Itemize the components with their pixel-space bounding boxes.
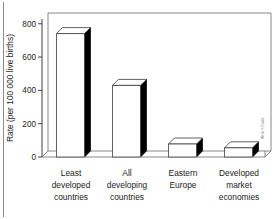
bar-group-2	[169, 138, 203, 157]
category-label-line: market	[226, 180, 252, 190]
source-credit: WHO 97/1441	[261, 117, 265, 139]
category-label-line: Developed	[219, 168, 259, 178]
bar-group-3	[225, 142, 259, 157]
y-tick-label: 800	[22, 20, 36, 29]
y-tick-label: 400	[22, 86, 36, 95]
category-label-line: Europe	[169, 180, 196, 190]
category-label-line: Least	[61, 168, 82, 178]
y-tick-label: 0	[31, 153, 36, 162]
y-tick-label: 600	[22, 53, 36, 62]
category-label-line: Eastern	[169, 168, 198, 178]
category-label-line: developing	[107, 180, 148, 190]
category-label-line: economies	[219, 192, 260, 202]
chart-figure: 800 600 400 200 0 Rate (per 100 000 live…	[0, 0, 277, 219]
category-label-line: developed	[52, 180, 91, 190]
y-axis-label: Rate (per 100 000 live births)	[5, 34, 15, 142]
category-label-line: All	[122, 168, 131, 178]
category-label-line: countries	[54, 192, 88, 202]
bar-group-1	[113, 79, 147, 157]
bar-group-0	[57, 28, 91, 157]
y-tick-label: 200	[22, 120, 36, 129]
category-label-line: countries	[110, 192, 144, 202]
